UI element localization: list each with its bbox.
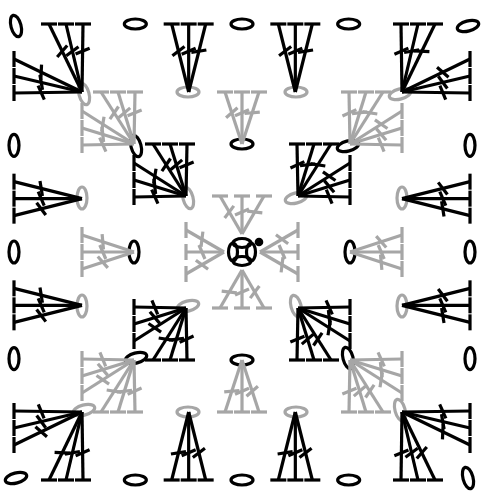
round-3 bbox=[72, 82, 412, 422]
dc-stem bbox=[14, 59, 82, 92]
dc-stem bbox=[14, 92, 82, 93]
dc-crossbar bbox=[381, 255, 382, 270]
round-2 bbox=[124, 134, 360, 370]
dc-stem bbox=[134, 360, 135, 412]
chain-stitch bbox=[124, 19, 146, 29]
chain-stitch bbox=[124, 475, 146, 485]
dc-crossbar bbox=[55, 452, 70, 453]
dc-stem bbox=[14, 411, 82, 412]
chain-stitch bbox=[231, 19, 253, 29]
dc-stem bbox=[402, 182, 470, 199]
corner-chain-2 bbox=[460, 466, 475, 490]
chain-stitch bbox=[460, 466, 475, 490]
dc-stem bbox=[172, 412, 189, 480]
dc-stem bbox=[82, 412, 83, 480]
dc-stem bbox=[298, 307, 350, 308]
corner-chain-2 bbox=[8, 14, 23, 38]
corner-chain-2 bbox=[4, 470, 28, 485]
dc-crossbar bbox=[414, 51, 429, 52]
dc-stem bbox=[278, 412, 295, 480]
dc-stem bbox=[295, 24, 312, 92]
dc-stem bbox=[278, 24, 295, 92]
chain-stitch bbox=[8, 14, 23, 38]
dc-crossbar bbox=[224, 391, 239, 392]
dc-stem bbox=[66, 24, 82, 92]
dc-stem bbox=[402, 412, 418, 480]
crochet-chart bbox=[0, 0, 484, 502]
dc-stem bbox=[82, 24, 83, 92]
dc-stem bbox=[402, 412, 470, 445]
dc-crossbar bbox=[281, 257, 283, 272]
dc-stem bbox=[402, 412, 435, 480]
dc-crossbar bbox=[442, 424, 443, 439]
dc-stem bbox=[402, 412, 470, 428]
dc-stem bbox=[14, 199, 82, 216]
chain-stitch bbox=[338, 19, 360, 29]
dc-crossbar bbox=[245, 112, 260, 113]
dc-stem bbox=[402, 24, 435, 92]
dc-stem bbox=[260, 252, 298, 274]
chain-stitch bbox=[465, 134, 475, 156]
dc-stem bbox=[82, 235, 134, 252]
slip-stitch-dot bbox=[255, 238, 264, 247]
dc-stem bbox=[298, 196, 350, 197]
round-4 bbox=[4, 14, 480, 490]
chain-stitch bbox=[465, 348, 475, 370]
dc-stem bbox=[350, 144, 402, 145]
dc-stem bbox=[402, 305, 470, 322]
round-1 bbox=[176, 186, 308, 318]
dc-stem bbox=[186, 230, 224, 252]
dc-crossbar bbox=[247, 211, 262, 213]
dc-stem bbox=[402, 288, 470, 305]
dc-stem bbox=[66, 412, 82, 480]
dc-stem bbox=[402, 24, 418, 92]
dc-stem bbox=[189, 24, 206, 92]
dc-stem bbox=[14, 412, 82, 428]
dc-stem bbox=[297, 308, 298, 360]
dc-stem bbox=[402, 199, 470, 216]
dc-stem bbox=[402, 92, 470, 93]
chain-stitch bbox=[4, 470, 28, 485]
dc-stem bbox=[134, 196, 186, 197]
chain-stitch bbox=[9, 348, 19, 370]
dc-stem bbox=[49, 24, 82, 92]
dc-stem bbox=[350, 252, 402, 269]
chain-stitch bbox=[465, 241, 475, 263]
dc-stem bbox=[14, 288, 82, 305]
dc-stem bbox=[14, 412, 82, 445]
dc-stem bbox=[14, 182, 82, 199]
chain-stitch bbox=[9, 241, 19, 263]
dc-stem bbox=[172, 24, 189, 92]
dc-stem bbox=[402, 59, 470, 92]
center-ring bbox=[229, 238, 264, 266]
dc-stem bbox=[242, 92, 259, 144]
dc-crossbar bbox=[222, 291, 237, 293]
chain-stitch bbox=[9, 134, 19, 156]
dc-stem bbox=[186, 144, 187, 196]
dc-crossbar bbox=[201, 232, 203, 247]
dc-stem bbox=[242, 196, 264, 234]
chain-stitch bbox=[231, 475, 253, 485]
dc-crossbar bbox=[41, 65, 42, 80]
corner-chain-2 bbox=[456, 18, 480, 33]
dc-stem bbox=[189, 412, 206, 480]
chain-stitch bbox=[338, 475, 360, 485]
dc-stem bbox=[350, 359, 402, 360]
chain-stitch bbox=[456, 18, 480, 33]
dc-stem bbox=[225, 360, 242, 412]
dc-stem bbox=[349, 92, 350, 144]
dc-stem bbox=[401, 412, 402, 480]
dc-stem bbox=[186, 308, 187, 360]
dc-stem bbox=[82, 359, 134, 360]
dc-stem bbox=[402, 411, 470, 412]
dc-stem bbox=[49, 412, 82, 480]
dc-stem bbox=[401, 24, 402, 92]
dc-stem bbox=[297, 144, 298, 196]
dc-stem bbox=[82, 144, 134, 145]
dc-stem bbox=[134, 92, 135, 144]
dc-stem bbox=[349, 360, 350, 412]
dc-stem bbox=[134, 307, 186, 308]
dc-stem bbox=[220, 270, 242, 308]
dc-stem bbox=[402, 76, 470, 92]
dc-stem bbox=[14, 76, 82, 92]
